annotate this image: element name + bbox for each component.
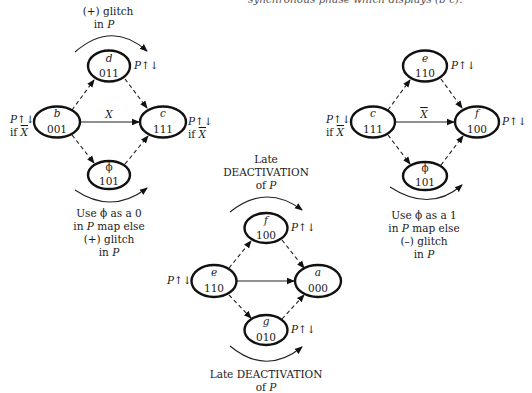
node-c-condition: if X: [188, 128, 207, 140]
node-e-p-label: P↑↓: [450, 59, 476, 71]
node-phi-right: ϕ 101: [403, 162, 447, 190]
node-c-right-condition: if X: [326, 126, 345, 138]
svg-text:011: 011: [99, 67, 119, 79]
edge-c-phi: [388, 135, 410, 164]
node-c-p-label: P↑↓: [187, 115, 213, 127]
svg-text:110: 110: [415, 67, 435, 79]
bottom-top-curved-arrow: [230, 197, 302, 212]
node-f: f 100: [455, 107, 499, 138]
left-bottom-note-line2: in P map else: [73, 220, 144, 232]
left-top-note-line2: in P: [94, 18, 115, 30]
edge-f-a: [282, 240, 304, 268]
svg-text:d: d: [106, 52, 113, 64]
svg-text:000: 000: [308, 282, 328, 294]
edge-g-a: [282, 295, 304, 319]
edge-d-c: [125, 79, 147, 108]
left-top-note-line1: (+) glitch: [83, 5, 134, 17]
node-f-bottom-p-label: P↑↓: [290, 221, 316, 233]
left-bottom-note-line4: in P: [99, 246, 120, 258]
node-f-bottom: f 100: [245, 213, 288, 243]
edge-e-f: [441, 79, 462, 108]
svg-text:g: g: [263, 315, 270, 327]
node-d-p-label: P↑↓: [133, 59, 159, 71]
bottom-bottom-note-line1: Late DEACTIVATION: [210, 368, 323, 380]
right-bottom-note-line3: (–) glitch: [400, 235, 447, 247]
svg-text:ϕ: ϕ: [105, 161, 112, 173]
svg-text:e: e: [211, 266, 217, 278]
node-b-p-label: P↑↓: [9, 113, 35, 125]
left-bottom-note-line3: (+) glitch: [84, 233, 135, 245]
node-g: g 010: [245, 315, 288, 345]
node-d: d 011: [88, 51, 130, 82]
state-transition-diagram: synchronous phase which displays (b-c). …: [0, 0, 532, 393]
edge-e-f-bottom: [229, 241, 251, 268]
svg-text:111: 111: [363, 123, 383, 135]
node-e-bottom: e 110: [192, 265, 237, 297]
bottom-bottom-curved-arrow: [230, 346, 302, 361]
svg-text:e: e: [422, 52, 428, 64]
edge-phi-f: [441, 136, 463, 165]
bottom-diagram: Late DEACTIVATION of P f 100 P↑↓ e 110 P…: [166, 153, 341, 393]
node-phi: ϕ 101: [88, 161, 130, 189]
svg-text:ϕ: ϕ: [421, 162, 428, 174]
svg-text:c: c: [370, 107, 376, 119]
top-caption: synchronous phase which displays (b-c).: [248, 0, 463, 5]
node-f-p-label: P↑↓: [501, 115, 527, 127]
right-diagram: X e 110 P↑↓ c 111 P↑↓ if X f 100 P↑↓ ϕ 1…: [325, 51, 527, 261]
bottom-top-note-line3: of P: [256, 179, 278, 191]
left-diagram: (+) glitch in P X d 011 P↑↓ b 001 P↑↓ if…: [9, 5, 213, 258]
svg-text:101: 101: [99, 175, 119, 187]
node-c-right-p-label: P↑↓: [325, 113, 351, 125]
svg-text:100: 100: [256, 229, 276, 241]
bottom-bottom-note-line2: of P: [256, 381, 278, 393]
node-c: c 111: [140, 107, 186, 138]
svg-text:100: 100: [467, 123, 487, 135]
edge-e-g: [229, 295, 251, 318]
svg-text:010: 010: [256, 331, 276, 343]
node-b-condition: if X: [10, 126, 29, 138]
edge-b-phi: [72, 135, 94, 163]
node-g-p-label: P↑↓: [290, 323, 316, 335]
svg-text:110: 110: [204, 282, 224, 294]
node-c-right: c 111: [351, 107, 395, 138]
svg-text:001: 001: [47, 123, 67, 135]
node-a: a 000: [295, 265, 341, 297]
bottom-top-note-line1: Late: [254, 153, 278, 165]
left-bottom-note-line1: Use ϕ as a 0: [76, 207, 142, 219]
node-e: e 110: [403, 51, 447, 82]
edge-label-x-bar: X: [419, 108, 428, 120]
node-b: b 001: [34, 107, 80, 138]
edge-b-d: [72, 80, 94, 110]
svg-text:101: 101: [415, 176, 435, 188]
right-bottom-note-line2: in P map else: [388, 222, 459, 234]
right-bottom-note-line4: in P: [414, 248, 435, 260]
svg-text:111: 111: [153, 123, 173, 135]
svg-text:a: a: [315, 266, 321, 278]
bottom-top-note-line2: DEACTIVATION: [223, 166, 309, 178]
edge-c-e: [388, 80, 410, 110]
node-e-bottom-p-label: P↑↓: [166, 274, 192, 286]
svg-text:b: b: [54, 107, 61, 119]
edge-phi-c: [125, 136, 148, 164]
svg-text:c: c: [160, 107, 166, 119]
edge-label-x: X: [104, 108, 113, 120]
right-bottom-note-line1: Use ϕ as a 1: [391, 209, 457, 221]
